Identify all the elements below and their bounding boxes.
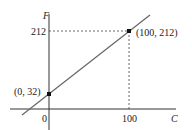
point-label-0-32: (0, 32) bbox=[14, 86, 41, 98]
point-0-32 bbox=[47, 92, 51, 96]
x-axis-label: C bbox=[171, 113, 178, 124]
x-tick-100: 100 bbox=[122, 113, 137, 124]
chart: F 212 (0, 32) (100, 212) 0 100 C bbox=[0, 0, 192, 130]
point-100-212 bbox=[127, 29, 131, 33]
origin-label: 0 bbox=[42, 113, 47, 124]
y-axis-label: F bbox=[42, 10, 50, 21]
y-tick-212: 212 bbox=[31, 26, 46, 37]
point-label-100-212: (100, 212) bbox=[136, 27, 178, 39]
